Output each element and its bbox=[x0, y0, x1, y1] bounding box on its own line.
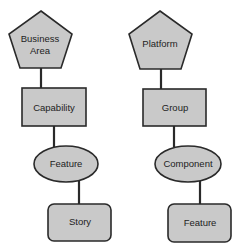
group-node: Group bbox=[143, 89, 206, 126]
story-label: Story bbox=[69, 216, 91, 227]
feature-label: Feature bbox=[50, 158, 83, 169]
business-area-label-line2: Area bbox=[30, 45, 51, 56]
feature-leaf-node: Feature bbox=[168, 204, 231, 242]
story-node: Story bbox=[48, 204, 111, 241]
left-hierarchy: Business Area Capability Feature Story bbox=[9, 11, 111, 241]
group-label: Group bbox=[162, 102, 188, 113]
feature-leaf-label: Feature bbox=[184, 217, 217, 228]
component-node: Component bbox=[155, 146, 221, 182]
platform-label: Platform bbox=[142, 38, 177, 49]
feature-node: Feature bbox=[34, 146, 98, 182]
capability-node: Capability bbox=[22, 88, 86, 126]
business-area-node: Business Area bbox=[9, 11, 72, 68]
right-hierarchy: Platform Group Component Feature bbox=[129, 11, 231, 242]
component-label: Component bbox=[163, 158, 212, 169]
business-area-label-line1: Business bbox=[21, 33, 60, 44]
capability-label: Capability bbox=[33, 102, 75, 113]
hierarchy-diagram: Business Area Capability Feature Story P… bbox=[0, 0, 245, 252]
platform-node: Platform bbox=[129, 11, 192, 69]
